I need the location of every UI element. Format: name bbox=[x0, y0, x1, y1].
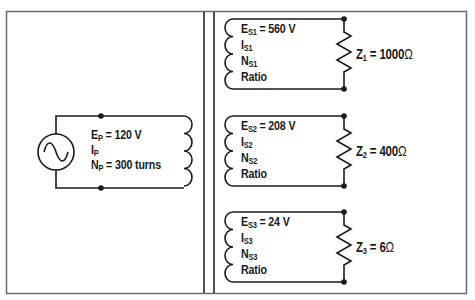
primary-coil bbox=[184, 116, 192, 186]
secondary-2-turns-label: NS2 bbox=[241, 150, 257, 167]
secondary-1-current-label: IS1 bbox=[241, 37, 253, 54]
subscript: S3 bbox=[248, 220, 257, 230]
value: = 120 V bbox=[103, 127, 142, 142]
value: = 24 V bbox=[257, 214, 290, 229]
value: = 6 bbox=[367, 239, 386, 255]
secondary-coil-1 bbox=[225, 19, 233, 89]
sine-wave-icon bbox=[44, 143, 68, 161]
terminal-dot bbox=[341, 113, 347, 119]
secondary-1-turns-label: NS1 bbox=[241, 53, 257, 70]
subscript: P bbox=[98, 133, 103, 143]
secondary-3-turns-label: NS3 bbox=[241, 246, 257, 263]
terminal-dot bbox=[341, 279, 347, 285]
secondary-3-voltage-label: ES3 = 24 V bbox=[241, 214, 290, 231]
subscript: P bbox=[99, 163, 104, 173]
load-3-label: Z3 = 6Ω bbox=[356, 240, 394, 257]
ohm-symbol: Ω bbox=[404, 46, 412, 62]
load-1-label: Z1 = 1000Ω bbox=[356, 47, 413, 64]
secondary-2-voltage-label: ES2 = 208 V bbox=[241, 118, 295, 135]
value: = 560 V bbox=[257, 21, 296, 36]
subscript: 1 bbox=[363, 53, 367, 63]
subscript: S1 bbox=[248, 27, 257, 37]
secondary-3-ratio-label: Ratio bbox=[241, 262, 267, 277]
secondary-3-current-label: IS3 bbox=[241, 230, 253, 247]
subscript: S2 bbox=[249, 156, 258, 166]
primary-turns-label: NP = 300 turns bbox=[91, 157, 161, 174]
subscript: S3 bbox=[244, 236, 253, 246]
terminal-dot bbox=[98, 185, 104, 191]
value: = 400 bbox=[367, 143, 398, 159]
subscript: S2 bbox=[244, 140, 253, 150]
subscript: S2 bbox=[248, 124, 257, 134]
ohm-symbol: Ω bbox=[386, 239, 394, 255]
subscript: S1 bbox=[244, 43, 253, 53]
value: = 208 V bbox=[257, 118, 296, 133]
value: = 1000 bbox=[367, 46, 404, 62]
value: = 300 turns bbox=[103, 157, 161, 172]
secondary-coil-3 bbox=[225, 212, 233, 282]
secondary-1-ratio-label: Ratio bbox=[241, 69, 267, 84]
terminal-dot bbox=[341, 209, 347, 215]
subscript: S3 bbox=[249, 252, 258, 262]
terminal-dot bbox=[98, 113, 104, 119]
ohm-symbol: Ω bbox=[398, 143, 406, 159]
secondary-1-voltage-label: ES1 = 560 V bbox=[241, 21, 295, 38]
terminal-dot bbox=[341, 16, 347, 22]
load-2-label: Z2 = 400Ω bbox=[356, 144, 406, 161]
secondary-2-ratio-label: Ratio bbox=[241, 166, 267, 181]
terminal-dot bbox=[341, 183, 347, 189]
secondary-coil-2 bbox=[225, 116, 233, 186]
subscript: S1 bbox=[249, 59, 258, 69]
secondary-2-current-label: IS2 bbox=[241, 134, 253, 151]
terminal-dot bbox=[341, 86, 347, 92]
subscript: 2 bbox=[363, 150, 367, 160]
subscript: 3 bbox=[363, 246, 367, 256]
